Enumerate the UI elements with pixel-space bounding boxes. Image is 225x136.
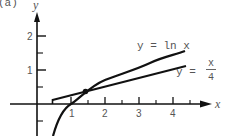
- curve-linear-label-denominator: 4: [208, 72, 214, 83]
- x-tick-label-3: 3: [136, 108, 142, 119]
- x-tick-label-2: 2: [102, 108, 108, 119]
- curve-ln-label: y = ln x: [137, 40, 190, 52]
- x-tick-label-1: 1: [69, 108, 75, 119]
- curve-linear: [53, 66, 187, 100]
- x-axis-label: x: [214, 97, 221, 111]
- curve-linear-label-numerator: x: [208, 58, 214, 69]
- y-tick-label-1: 1: [27, 65, 33, 76]
- y-axis-label: y: [32, 0, 39, 12]
- graph-figure: (a) y x 2 1 1 2 3 4 y = ln x y = x 4: [0, 0, 225, 136]
- curve-ln: [53, 51, 185, 136]
- y-ticks: [37, 36, 46, 121]
- curve-linear-label-prefix: y =: [176, 66, 196, 78]
- y-tick-label-2: 2: [27, 31, 33, 42]
- x-axis-arrow-icon: [200, 101, 212, 108]
- intersection-point: [83, 89, 89, 95]
- panel-label: (a): [0, 0, 18, 9]
- y-axis-arrow-icon: [34, 12, 40, 22]
- x-ticks: [71, 97, 190, 104]
- x-tick-label-4: 4: [170, 108, 176, 119]
